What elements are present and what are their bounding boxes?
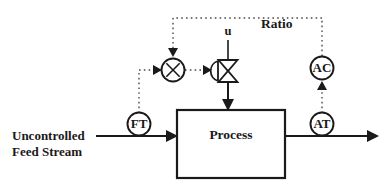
ft-to-multiplier-path bbox=[139, 70, 155, 113]
instrument-at[interactable]: AT bbox=[311, 113, 334, 137]
valve-body-bottom bbox=[219, 71, 238, 82]
instrument-ac[interactable]: AC bbox=[311, 57, 334, 80]
multiplier-block[interactable] bbox=[162, 59, 185, 82]
process-block bbox=[177, 110, 285, 178]
control-valve[interactable] bbox=[211, 40, 238, 111]
process-flow-diagram: Process FT AT AC bbox=[0, 0, 385, 187]
feed-stream-label-line1: Uncontrolled bbox=[12, 128, 85, 143]
ratio-label: Ratio bbox=[261, 16, 293, 31]
instrument-ft[interactable]: FT bbox=[128, 113, 151, 137]
ac-tag-label: AC bbox=[313, 60, 332, 75]
arrowhead-into-ac bbox=[317, 81, 327, 90]
ratio-signal-path bbox=[173, 18, 322, 56]
valve-actuator bbox=[211, 61, 218, 81]
feed-stream-label-line2: Feed Stream bbox=[12, 144, 82, 159]
manipulated-input-label: u bbox=[225, 24, 232, 38]
diagram-canvas: Process FT AT AC bbox=[0, 0, 385, 187]
ft-tag-label: FT bbox=[131, 116, 148, 131]
process-block-label: Process bbox=[209, 127, 252, 142]
at-tag-label: AT bbox=[313, 116, 330, 131]
arrowhead-product-outlet bbox=[367, 130, 379, 142]
arrowhead-into-multiplier-top bbox=[168, 48, 178, 57]
valve-body-top bbox=[219, 60, 238, 71]
